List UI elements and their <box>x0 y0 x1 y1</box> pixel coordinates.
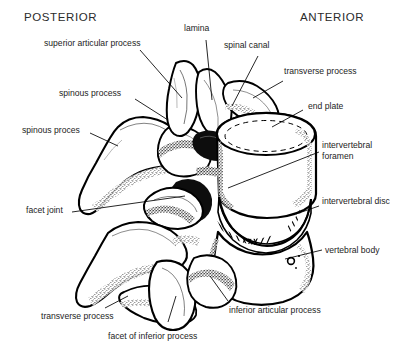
label-facet-joint: facet joint <box>26 205 63 216</box>
bone-illustration <box>72 40 322 330</box>
orientation-label-posterior: POSTERIOR <box>24 11 97 23</box>
vertebra-anatomy-diagram: POSTERIOR ANTERIOR superior articular pr… <box>0 0 408 358</box>
label-spinous-proces: spinous proces <box>22 125 80 136</box>
anatomy-illustration <box>0 0 408 358</box>
label-spinal-canal: spinal canal <box>224 40 269 51</box>
label-inferior-articular-process: inferior articular process <box>229 305 321 316</box>
label-vertebral-body: vertebral body <box>325 245 379 256</box>
orientation-label-anterior: ANTERIOR <box>300 11 364 23</box>
label-facet-of-inferior-process: facet of inferior process <box>108 331 197 342</box>
label-superior-articular-process: superior articular process <box>44 38 140 49</box>
label-intervertebral-disc: intervertebral disc <box>322 196 390 207</box>
label-transverse-process-top: transverse process <box>284 66 357 77</box>
label-end-plate: end plate <box>308 101 343 112</box>
label-lamina: lamina <box>184 23 209 34</box>
label-transverse-process-bottom: transverse process <box>41 311 114 322</box>
label-spinous-process: spinous process <box>59 88 121 99</box>
superior-articular-process-shape <box>167 61 201 136</box>
label-intervertebral-foramen: intervertebral foramen <box>322 140 372 161</box>
